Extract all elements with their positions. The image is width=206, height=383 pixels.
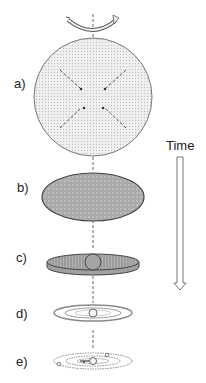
stage-c-disk bbox=[47, 254, 139, 275]
stage-d-label: d) bbox=[16, 306, 28, 321]
stage-a-label: a) bbox=[14, 76, 26, 91]
stage-c-label: c) bbox=[16, 250, 27, 265]
stage-e-planetary-system bbox=[54, 353, 132, 369]
stage-a-cloud bbox=[34, 38, 152, 156]
rotation-arrow-icon bbox=[66, 15, 119, 30]
stage-b-ellipsoid bbox=[42, 173, 144, 221]
stage-e-label: e) bbox=[16, 354, 28, 369]
time-axis-label: Time bbox=[166, 138, 194, 153]
time-arrow-icon bbox=[174, 157, 186, 290]
stage-d-disk bbox=[54, 305, 132, 321]
diagram-canvas bbox=[0, 0, 206, 383]
stage-b-label: b) bbox=[17, 180, 29, 195]
